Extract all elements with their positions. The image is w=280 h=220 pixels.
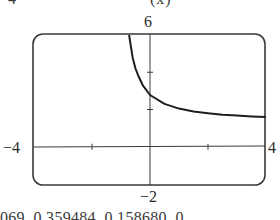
x-axis <box>33 146 265 147</box>
graph-plot <box>0 0 280 220</box>
cropped-text-bottom: 069, 0.359484, 0.158680, 0 <box>0 210 184 220</box>
